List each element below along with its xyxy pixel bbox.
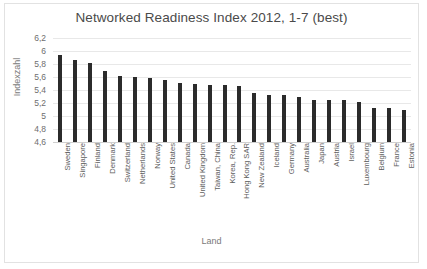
x-tick-label: Sweden <box>63 143 72 170</box>
bar <box>208 85 212 142</box>
plot-area <box>53 38 411 142</box>
x-tick-label: Finland <box>93 143 102 168</box>
x-tick-label: France <box>392 143 401 167</box>
bar-series <box>53 38 411 142</box>
bar <box>133 77 137 142</box>
bar <box>103 71 107 143</box>
bar <box>312 100 316 142</box>
x-tick-label: Iceland <box>272 143 281 168</box>
y-tick-label: 5,4 <box>34 85 46 95</box>
x-axis-title: Land <box>5 236 418 246</box>
bar <box>163 80 167 142</box>
bar <box>372 108 376 142</box>
x-tick-label: New Zealand <box>257 143 266 188</box>
bar <box>282 95 286 142</box>
bar <box>118 76 122 142</box>
bar <box>223 85 227 142</box>
bar <box>178 83 182 142</box>
x-tick-label: Norway <box>153 143 162 169</box>
x-tick-label: Singapore <box>78 143 87 178</box>
bar <box>387 108 391 142</box>
x-tick-label: Israel <box>347 143 356 162</box>
x-tick-label: Australia <box>302 143 311 173</box>
x-tick-label: Denmark <box>108 143 117 174</box>
y-tick-label: 6,2 <box>34 33 46 43</box>
bar <box>267 95 271 142</box>
y-tick-label: 6 <box>41 46 46 56</box>
x-tick-label: Hong Kong SAR <box>242 143 251 199</box>
y-axis-ticks: 6,265,85,65,45,254,84,6 <box>5 38 49 142</box>
bar <box>402 110 406 142</box>
bar <box>148 78 152 142</box>
x-tick-label: Germany <box>287 143 296 174</box>
y-tick-label: 5,6 <box>34 72 46 82</box>
bar <box>193 84 197 143</box>
bar <box>252 93 256 142</box>
x-tick-label: Austria <box>332 143 341 167</box>
bar <box>58 55 62 142</box>
x-tick-label: United States <box>168 143 177 189</box>
x-tick-label: Japan <box>317 143 326 164</box>
x-tick-label: Korea, Rep. <box>228 143 237 184</box>
bar <box>357 102 361 142</box>
x-tick-label: Switzerland <box>123 143 132 182</box>
x-tick-label: Canada <box>183 143 192 170</box>
bar <box>297 97 301 142</box>
bar <box>73 60 77 142</box>
bar <box>237 86 241 142</box>
y-tick-label: 4,6 <box>34 137 46 147</box>
y-tick-label: 5 <box>41 111 46 121</box>
y-tick-label: 5,8 <box>34 59 46 69</box>
x-tick-label: United Kingdom <box>198 143 207 197</box>
y-tick-label: 4,8 <box>34 124 46 134</box>
bar <box>327 100 331 142</box>
x-tick-label: Belgium <box>377 143 386 170</box>
chart-title: Networked Readiness Index 2012, 1-7 (bes… <box>5 10 418 25</box>
chart-container: Networked Readiness Index 2012, 1-7 (bes… <box>4 3 419 263</box>
x-tick-label: Taiwan, China <box>213 143 222 191</box>
bar <box>88 63 92 142</box>
x-axis-category-labels: SwedenSingaporeFinlandDenmarkSwitzerland… <box>53 143 411 221</box>
y-tick-label: 5,2 <box>34 98 46 108</box>
x-tick-label: Netherlands <box>138 143 147 184</box>
bar <box>342 100 346 142</box>
x-tick-label: Estonia <box>407 143 416 168</box>
x-tick-label: Luxembourg <box>362 143 371 185</box>
